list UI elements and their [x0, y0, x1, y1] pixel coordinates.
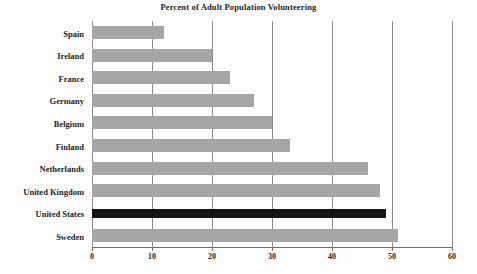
bar-sweden	[92, 229, 398, 242]
category-label-united-kingdom: United Kingdom	[0, 187, 88, 197]
category-label-germany: Germany	[0, 96, 88, 106]
bar-germany	[92, 94, 254, 107]
category-label-belgium: Belgium	[0, 119, 88, 129]
x-tick-label: 0	[72, 252, 112, 261]
tick-40	[332, 247, 333, 251]
bar-france	[92, 71, 230, 84]
tick-60	[452, 247, 453, 251]
category-label-united-states: United States	[0, 209, 88, 219]
bar-united-kingdom	[92, 184, 380, 197]
bar-belgium	[92, 116, 272, 129]
bar-finland	[92, 139, 290, 152]
x-tick-label: 20	[192, 252, 232, 261]
tick-20	[212, 247, 213, 251]
category-label-sweden: Sweden	[0, 232, 88, 242]
category-label-france: France	[0, 74, 88, 84]
chart-title: Percent of Adult Population Volunteering	[0, 2, 477, 12]
tick-10	[152, 247, 153, 251]
x-tick-label: 50	[372, 252, 412, 261]
tick-30	[272, 247, 273, 251]
bar-netherlands	[92, 162, 368, 175]
plot-area	[92, 21, 452, 247]
bar-united-states	[92, 209, 386, 218]
category-label-finland: Finland	[0, 142, 88, 152]
tick-0	[92, 247, 93, 251]
bar-spain	[92, 26, 164, 39]
x-tick-label: 60	[432, 252, 472, 261]
tick-50	[392, 247, 393, 251]
category-label-ireland: Ireland	[0, 51, 88, 61]
gridline-60	[452, 21, 453, 247]
category-label-spain: Spain	[0, 29, 88, 39]
x-tick-label: 30	[252, 252, 292, 261]
bar-chart: Percent of Adult Population Volunteering…	[0, 0, 477, 274]
x-tick-label: 10	[132, 252, 172, 261]
category-label-netherlands: Netherlands	[0, 164, 88, 174]
x-tick-label: 40	[312, 252, 352, 261]
bar-ireland	[92, 49, 212, 62]
gridline-50	[392, 21, 393, 247]
